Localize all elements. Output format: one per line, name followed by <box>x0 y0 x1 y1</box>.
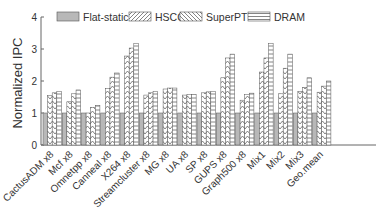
bar-dram <box>269 43 274 145</box>
bar-superpt <box>245 94 250 145</box>
bar-flat-static <box>159 113 164 145</box>
bar-dram <box>192 94 197 145</box>
bar-hscc <box>86 113 91 145</box>
bar-dram <box>288 54 293 145</box>
bar-dram <box>230 54 235 145</box>
bar-flat-static <box>120 113 125 145</box>
bar-superpt <box>187 94 192 145</box>
bar-flat-static <box>62 113 67 145</box>
bar-dram <box>307 78 312 145</box>
bar-flat-static <box>139 113 144 145</box>
x-tick-label: Mix1 <box>245 148 268 171</box>
bar-flat-static <box>293 113 298 145</box>
bar-hscc <box>67 102 72 145</box>
bar-superpt <box>283 68 288 145</box>
bar-dram <box>115 73 120 145</box>
bar-flat-static <box>82 113 87 145</box>
bar-flat-static <box>236 113 241 145</box>
bar-dram <box>57 91 62 145</box>
bar-superpt <box>148 93 153 145</box>
bar-dram <box>249 93 254 145</box>
bar-dram <box>172 88 177 145</box>
bar-hscc <box>182 95 187 145</box>
bar-superpt <box>168 88 173 145</box>
legend-swatch-dram <box>248 12 270 21</box>
bar-dram <box>134 43 139 145</box>
bar-flat-static <box>274 113 279 145</box>
bar-flat-static <box>43 113 48 145</box>
bar-flat-static <box>101 113 106 145</box>
bar-hscc <box>298 91 303 145</box>
legend-swatch-superpt <box>180 12 202 21</box>
bar-hscc <box>259 72 264 145</box>
bar-dram <box>211 91 216 145</box>
bar-superpt <box>71 94 76 145</box>
bar-flat-static <box>178 113 183 145</box>
bar-hscc <box>125 56 130 145</box>
bar-superpt <box>225 58 230 145</box>
bar-superpt <box>264 58 269 145</box>
bar-hscc <box>240 100 245 145</box>
y-axis-label: Normalized IPC <box>10 37 25 128</box>
legend: Flat-staticHSCCSuperPTDRAM <box>57 11 305 23</box>
bar-hscc <box>105 88 110 145</box>
y-tick-label: 2 <box>31 76 37 87</box>
bar-superpt <box>91 107 96 145</box>
bar-hscc <box>221 78 226 145</box>
bar-hscc <box>163 89 168 145</box>
bar-flat-static <box>255 113 260 145</box>
bar-dram <box>76 90 81 145</box>
bar-hscc <box>144 95 149 145</box>
bar-superpt <box>322 86 327 145</box>
bar-superpt <box>110 77 115 145</box>
legend-swatch-flat-static <box>57 12 79 21</box>
bar-flat-static <box>313 113 318 145</box>
x-tick-label: Mix2 <box>264 148 287 171</box>
legend-swatch-hscc <box>129 12 151 21</box>
bar-dram <box>95 105 100 145</box>
category-labels: CactusADM x8Mcf x8Omnetpp x8Canneal x8X2… <box>1 148 325 209</box>
bars <box>43 43 331 145</box>
bar-hscc <box>202 93 207 145</box>
y-tick-label: 1 <box>31 108 37 119</box>
bar-flat-static <box>216 113 221 145</box>
bar-flat-static <box>197 113 202 145</box>
bar-dram <box>326 81 331 145</box>
bar-dram <box>153 91 158 145</box>
bar-superpt <box>52 93 57 145</box>
bar-superpt <box>206 92 211 145</box>
bar-hscc <box>48 95 53 145</box>
y-tick-label: 3 <box>31 44 37 55</box>
bar-superpt <box>129 48 134 145</box>
y-tick-label: 4 <box>31 12 37 23</box>
bar-chart: 01234Normalized IPC Flat-staticHSCCSuper… <box>0 0 387 212</box>
y-tick-label: 0 <box>31 140 37 151</box>
legend-label: SuperPT <box>206 11 248 23</box>
bar-hscc <box>279 94 284 145</box>
bar-hscc <box>317 92 322 145</box>
bar-superpt <box>302 87 307 145</box>
legend-label: Flat-static <box>83 11 129 23</box>
x-tick-label: CactusADM x8 <box>1 148 56 203</box>
legend-label: DRAM <box>274 11 305 23</box>
